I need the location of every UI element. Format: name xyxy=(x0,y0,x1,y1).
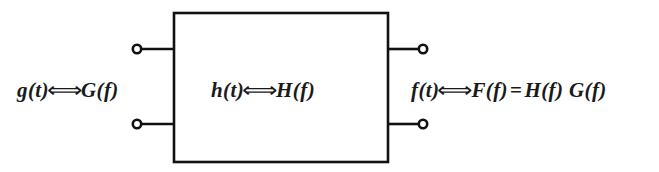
input-terminal-top xyxy=(133,45,141,53)
output-frequency-function: F(f) xyxy=(471,78,508,102)
output-terminal-bottom xyxy=(419,120,427,128)
system-frequency-function: H(f) xyxy=(276,78,315,102)
input-frequency-function: G(f) xyxy=(81,78,119,102)
output-time-function: f(t) xyxy=(411,78,439,102)
system-time-function: h(t) xyxy=(211,78,244,102)
block-diagram-figure: g(t)⟺G(f) h(t)⟺H(f) f(t)⟺F(f)=H(f) G(f) xyxy=(0,0,659,172)
fourier-pair-arrow-icon: ⟺ xyxy=(242,80,277,101)
input-time-function: g(t) xyxy=(17,78,49,102)
output-signal-label: f(t)⟺F(f)=H(f) G(f) xyxy=(411,80,607,101)
fourier-pair-arrow-icon: ⟺ xyxy=(438,80,473,101)
output-product-expression: H(f) G(f) xyxy=(524,78,606,102)
output-terminal-top xyxy=(419,45,427,53)
input-signal-label: g(t)⟺G(f) xyxy=(17,80,119,101)
system-impulse-response-label: h(t)⟺H(f) xyxy=(211,80,315,101)
fourier-pair-arrow-icon: ⟺ xyxy=(47,80,82,101)
input-terminal-bottom xyxy=(133,120,141,128)
equals-sign: = xyxy=(510,78,522,102)
